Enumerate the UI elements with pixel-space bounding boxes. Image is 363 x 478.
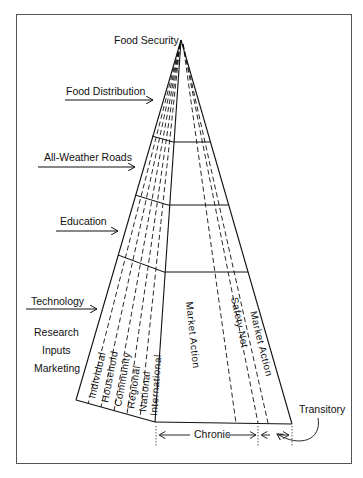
input-label: All-Weather Roads [44, 151, 132, 163]
tech-subitem-marketing: Marketing [34, 362, 80, 374]
input-label: Education [60, 215, 107, 227]
input-technology: Technology [26, 295, 97, 309]
input-all-weather-roads: All-Weather Roads [38, 151, 135, 167]
chronic-label: Chronic [194, 428, 230, 440]
input-education: Education [56, 215, 118, 231]
input-label: Food Distribution [66, 85, 146, 97]
transitory-label: Transitory [299, 403, 346, 415]
level-international: International [148, 354, 163, 416]
input-label: Technology [31, 295, 85, 307]
tech-subitem-inputs: Inputs [42, 344, 71, 356]
transitory-curved-arrow-icon [277, 418, 318, 441]
tech-subitem-research: Research [34, 326, 79, 338]
market-action-center-label: Market Action [184, 301, 202, 369]
input-food-distribution: Food Distribution [65, 85, 153, 100]
safety-net-label: Safety Net [229, 296, 251, 349]
food-security-pyramid-diagram: Food Security Food Distribution All-Weat… [0, 0, 363, 478]
market-action-right-label: Market Action [248, 310, 275, 378]
apex-label: Food Security [114, 34, 180, 46]
